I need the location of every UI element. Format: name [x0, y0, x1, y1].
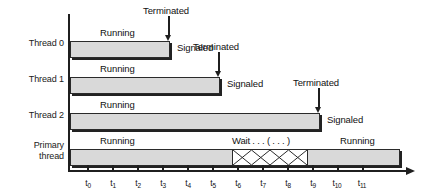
running-label-thread-0: Running: [100, 27, 135, 38]
axis-tick-2: [137, 165, 139, 172]
tick-sub-6: 6: [237, 182, 240, 189]
running-label-thread-2: Running: [100, 99, 135, 110]
tick-sub-1: 1: [112, 182, 115, 189]
axis-tick-label-2: t2: [127, 178, 149, 188]
tick-sub-5: 5: [212, 182, 215, 189]
axis-tick-6: [237, 165, 239, 172]
axis-tick-label-9: t9: [302, 178, 324, 188]
tick-sub-4: 4: [187, 182, 190, 189]
row-label-thread-1: Thread 1: [4, 74, 64, 85]
running-label-thread-1: Running: [100, 63, 135, 74]
signaled-label-thread-1: Signaled: [227, 78, 263, 89]
axis-tick-9: [312, 165, 314, 172]
terminated-arrow-thread-0: [168, 16, 170, 36]
wait-block-primary-thread: [232, 149, 308, 166]
terminated-arrow-thread-1: [218, 52, 220, 72]
tick-sub-9: 9: [312, 182, 315, 189]
running-label-primary-2: Running: [340, 135, 375, 146]
axis-tick-label-6: t6: [227, 178, 249, 188]
axis-tick-11: [362, 165, 364, 172]
axis-tick-label-8: t8: [277, 178, 299, 188]
axis-tick-7: [262, 165, 264, 172]
tick-sub-3: 3: [162, 182, 165, 189]
terminated-label-thread-2: Terminated: [293, 77, 339, 88]
axis-tick-label-5: t5: [202, 178, 224, 188]
axis-tick-5: [212, 165, 214, 172]
row-label-thread-2: Thread 2: [4, 110, 64, 121]
tick-sub-2: 2: [137, 182, 140, 189]
tick-sub-11: 11: [360, 182, 366, 189]
axis-tick-3: [162, 165, 164, 172]
terminated-label-thread-0: Terminated: [143, 5, 189, 16]
axis-tick-label-11: t11: [351, 178, 373, 188]
wait-label-primary: Wait . . . ( . . . ): [232, 135, 290, 146]
axis-tick-label-1: t1: [102, 178, 124, 188]
bar-thread-1: [70, 77, 220, 94]
axis-tick-label-3: t3: [152, 178, 174, 188]
bar-thread-0: [70, 41, 170, 58]
axis-arrow-head-icon: [406, 167, 415, 175]
axis-tick-4: [187, 165, 189, 172]
axis-tick-label-10: t10: [326, 178, 348, 188]
axis-tick-10: [337, 165, 339, 172]
tick-sub-7: 7: [262, 182, 265, 189]
tick-sub-0: 0: [87, 182, 90, 189]
terminated-arrow-thread-2: [318, 88, 320, 108]
terminated-label-thread-1: Terminated: [193, 41, 239, 52]
row-label-primary-thread: Primary thread: [4, 140, 64, 161]
axis-tick-label-4: t4: [177, 178, 199, 188]
signaled-label-thread-2: Signaled: [327, 114, 363, 125]
thread-timing-diagram: Thread 0 Thread 1 Thread 2 Primary threa…: [0, 0, 424, 193]
tick-sub-10: 10: [335, 182, 342, 189]
axis-tick-1: [112, 165, 114, 172]
axis-tick-label-0: t0: [77, 178, 99, 188]
axis-tick-label-7: t7: [252, 178, 274, 188]
wait-hatch-pattern: [233, 150, 307, 165]
axis-tick-8: [287, 165, 289, 172]
row-label-thread-0: Thread 0: [4, 38, 64, 49]
tick-sub-8: 8: [287, 182, 290, 189]
axis-tick-0: [87, 165, 89, 172]
bar-thread-2: [70, 113, 320, 130]
running-label-primary-1: Running: [100, 135, 135, 146]
